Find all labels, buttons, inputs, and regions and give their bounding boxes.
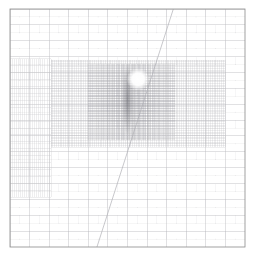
mesh-level-1 — [10, 59, 51, 197]
amr-mesh-plot[interactable] — [0, 0, 254, 265]
figure-container — [0, 0, 254, 265]
